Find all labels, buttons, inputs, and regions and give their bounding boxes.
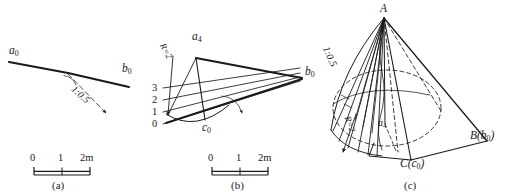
contour-line-1 (163, 77, 300, 112)
panel-c-radius-dashed (385, 124, 396, 151)
figure-root: a0 b0 1:0.5 0 1 2m (a) a4 b0 c0 R=2 3 2 … (0, 0, 505, 196)
panel-c-ellipse-upper-arc (333, 90, 430, 104)
panel-a-ridge-left (9, 62, 68, 73)
panel-a-graphic (9, 62, 129, 113)
panel-c-graphic (331, 18, 487, 160)
diagram-canvas (0, 0, 505, 196)
panel-b-edge-a4-b0 (196, 58, 302, 78)
contour-line-3 (163, 68, 300, 88)
scale-bar-b (212, 167, 268, 175)
panel-c-edge-A-B (384, 18, 487, 141)
panel-a-ridge-right (68, 73, 129, 87)
panel-c-edge-C-A (384, 18, 411, 160)
panel-c-edge-B-C (411, 141, 487, 160)
scale-bar-a (34, 167, 90, 175)
panel-c-radius-arrow (343, 114, 356, 152)
panel-c-hatch-2 (344, 104, 352, 108)
panel-b-fan-center (196, 58, 205, 120)
panel-c-gen-1 (333, 18, 384, 131)
panel-b-graphic (163, 56, 302, 124)
panel-c-base-left (369, 143, 411, 160)
panel-c-axis (384, 18, 385, 124)
